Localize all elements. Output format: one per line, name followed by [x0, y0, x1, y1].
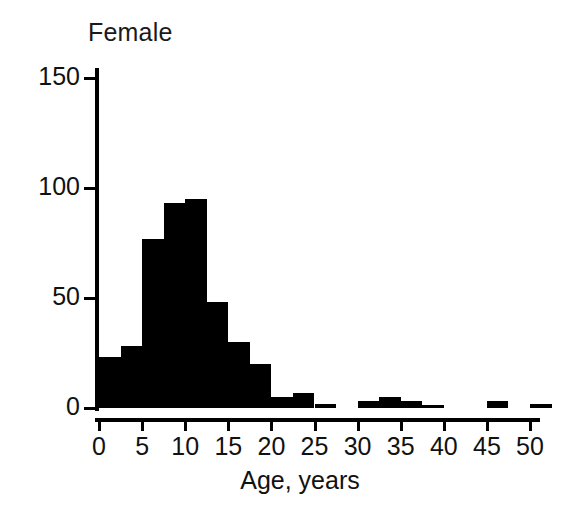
- histogram-bar: [530, 404, 552, 408]
- x-tick-mark: [486, 418, 489, 431]
- histogram-bar: [401, 401, 423, 408]
- histogram-bar: [121, 346, 143, 408]
- y-tick-mark: [84, 77, 96, 80]
- x-axis-title: Age, years: [0, 466, 570, 495]
- x-tick-mark: [270, 418, 273, 431]
- histogram-bar: [487, 401, 509, 408]
- x-tick-mark: [443, 418, 446, 431]
- y-tick-mark: [84, 407, 96, 410]
- y-tick-mark: [84, 297, 96, 300]
- y-tick-label: 100: [0, 174, 80, 199]
- y-tick-label: 0: [0, 394, 80, 419]
- histogram-bar: [271, 397, 293, 408]
- histogram-bar: [185, 199, 207, 408]
- histogram-bar: [228, 342, 250, 408]
- x-axis-title-label: Age, years: [240, 466, 360, 495]
- histogram-bar: [422, 405, 444, 408]
- y-tick-label-wrap: 150: [0, 64, 80, 89]
- x-tick-mark: [357, 418, 360, 431]
- histogram-bar: [99, 357, 121, 408]
- x-tick-mark: [314, 418, 317, 431]
- histogram-bar: [315, 404, 337, 408]
- histogram-bar: [358, 401, 380, 408]
- x-tick-mark: [227, 418, 230, 431]
- page-title: Female: [88, 18, 173, 47]
- y-tick-label-wrap: 100: [0, 174, 80, 199]
- histogram-figure: Female 150100500 05101520253035404550 Ag…: [0, 0, 570, 509]
- y-tick-mark: [84, 187, 96, 190]
- x-tick-mark: [98, 418, 101, 431]
- histogram-bar: [293, 393, 315, 408]
- x-axis-line: [95, 418, 540, 422]
- histogram-bar: [250, 364, 272, 408]
- y-tick-label-wrap: 0: [0, 394, 80, 419]
- histogram-bar: [142, 239, 164, 408]
- x-tick-mark: [141, 418, 144, 431]
- x-tick-mark: [529, 418, 532, 431]
- y-tick-label-wrap: 50: [0, 284, 80, 309]
- plot-area: [99, 70, 539, 408]
- histogram-bar: [164, 203, 186, 408]
- y-tick-label: 150: [0, 64, 80, 89]
- x-tick-mark: [400, 418, 403, 431]
- y-tick-label: 50: [0, 284, 80, 309]
- histogram-bar: [379, 397, 401, 408]
- histogram-bar: [207, 302, 229, 408]
- x-tick-label: 50: [505, 434, 555, 459]
- x-tick-mark: [184, 418, 187, 431]
